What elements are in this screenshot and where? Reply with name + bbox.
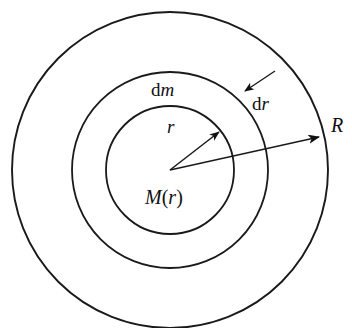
- label-r: r: [167, 116, 175, 137]
- thickness-dr-arrow: [245, 71, 275, 91]
- label-enclosed-mass: M(r): [144, 186, 183, 209]
- physics-shell-diagram: dm dr r R M(r): [0, 0, 352, 328]
- label-dm: dm: [151, 79, 174, 100]
- label-R: R: [330, 114, 343, 136]
- diagram-canvas: dm dr r R M(r): [0, 0, 352, 328]
- label-dr: dr: [252, 93, 270, 114]
